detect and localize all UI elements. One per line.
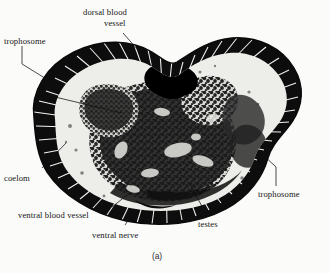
label-trophosome-right: trophosome [258, 189, 300, 199]
figure-caption: (a) [152, 251, 162, 261]
label-coelom: coelom [4, 173, 30, 183]
label-ventral-nerve: ventral nerve [92, 230, 138, 240]
micrograph-figure: dorsal blood vessel trophosome coelom ve… [0, 0, 330, 273]
figure-panel: dorsal blood vessel trophosome coelom ve… [0, 0, 330, 273]
label-trophosome-upper-left: trophosome [4, 36, 46, 46]
label-dorsal-blood-vessel-line1: dorsal blood [83, 7, 128, 17]
label-testes: testes [198, 219, 218, 229]
label-ventral-blood-vessel: ventral blood vessel [18, 210, 89, 220]
label-dorsal-blood-vessel-line2: vessel [104, 18, 126, 28]
